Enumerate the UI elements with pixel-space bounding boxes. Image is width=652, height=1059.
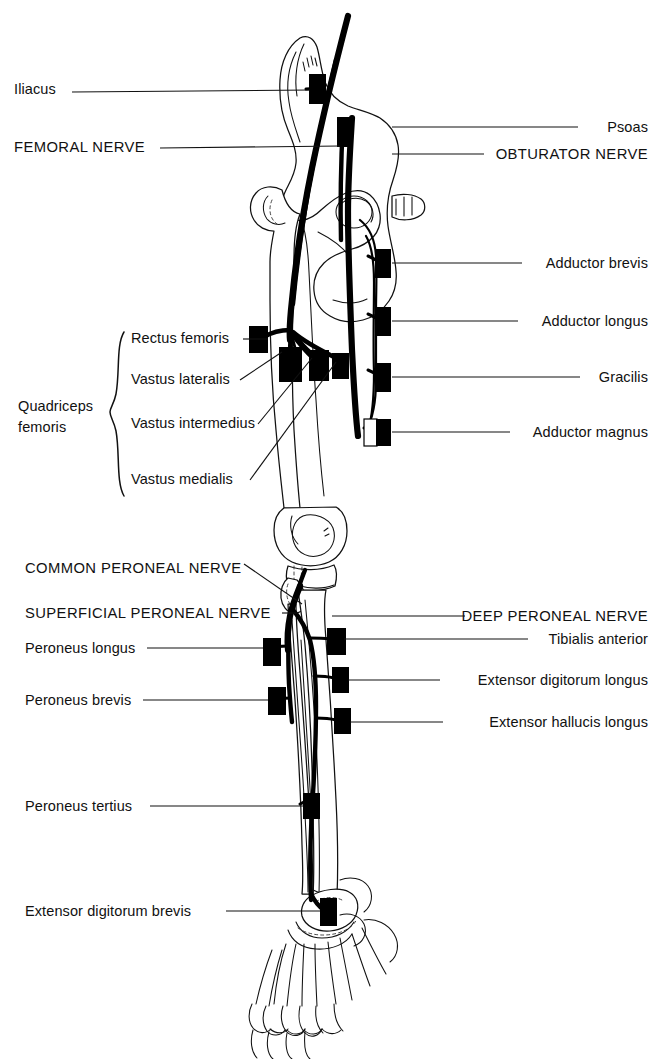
leader-vastus-medialis xyxy=(250,362,336,480)
label-psoas: Psoas xyxy=(607,120,648,135)
leader-vastus-lateralis xyxy=(240,352,282,380)
label-rectus-femoris: Rectus femoris xyxy=(131,331,229,346)
leader-femoral-nerve xyxy=(160,146,340,148)
label-peroneus-tertius: Peroneus tertius xyxy=(25,799,132,814)
label-adductor-longus: Adductor longus xyxy=(542,314,648,329)
label-peroneus-longus: Peroneus longus xyxy=(25,641,135,656)
leader-vastus-intermedius xyxy=(258,358,312,424)
label-quadriceps-femoris: Quadriceps femoris xyxy=(18,396,93,438)
label-peroneus-brevis: Peroneus brevis xyxy=(25,693,131,708)
label-common-peroneal-nerve: COMMON PERONEAL NERVE xyxy=(25,561,241,576)
label-adductor-brevis: Adductor brevis xyxy=(546,256,648,271)
label-deep-peroneal-nerve: DEEP PERONEAL NERVE xyxy=(461,609,648,624)
label-vastus-medialis: Vastus medialis xyxy=(131,472,233,487)
anatomy-figure: Iliacus FEMORAL NERVE Rectus femoris Vas… xyxy=(0,0,652,1059)
label-iliacus: Iliacus xyxy=(14,82,56,97)
label-tibialis-anterior: Tibialis anterior xyxy=(549,632,648,647)
label-vastus-intermedius: Vastus intermedius xyxy=(131,416,255,431)
label-extensor-hallucis-longus: Extensor hallucis longus xyxy=(489,715,648,730)
leader-iliacus xyxy=(72,90,310,92)
label-vastus-lateralis: Vastus lateralis xyxy=(131,372,230,387)
label-adductor-magnus: Adductor magnus xyxy=(533,425,648,440)
label-extensor-digitorum-longus: Extensor digitorum longus xyxy=(478,673,648,688)
leader-common-peroneal-nerve xyxy=(244,564,302,604)
label-superficial-peroneal-nerve: SUPERFICIAL PERONEAL NERVE xyxy=(25,606,271,621)
label-gracilis: Gracilis xyxy=(599,370,648,385)
label-obturator-nerve: OBTURATOR NERVE xyxy=(496,147,648,162)
quadriceps-brace xyxy=(110,332,124,496)
label-femoral-nerve: FEMORAL NERVE xyxy=(14,140,145,155)
label-extensor-digitorum-brevis: Extensor digitorum brevis xyxy=(25,904,191,919)
